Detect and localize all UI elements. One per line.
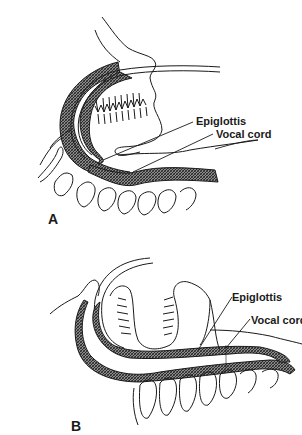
panel-a-epiglottis-label: Epiglottis xyxy=(196,115,246,127)
diagram-canvas xyxy=(0,0,302,435)
panel-b-illustration xyxy=(50,258,302,425)
panel-b-letter: B xyxy=(71,418,81,434)
panel-a-vocal-cord-label: Vocal cord xyxy=(216,128,271,140)
panel-a-letter: A xyxy=(48,211,58,227)
panel-b-vocal-cord-label: Vocal cord xyxy=(251,314,302,326)
panel-b-epiglottis-label: Epiglottis xyxy=(232,291,282,303)
